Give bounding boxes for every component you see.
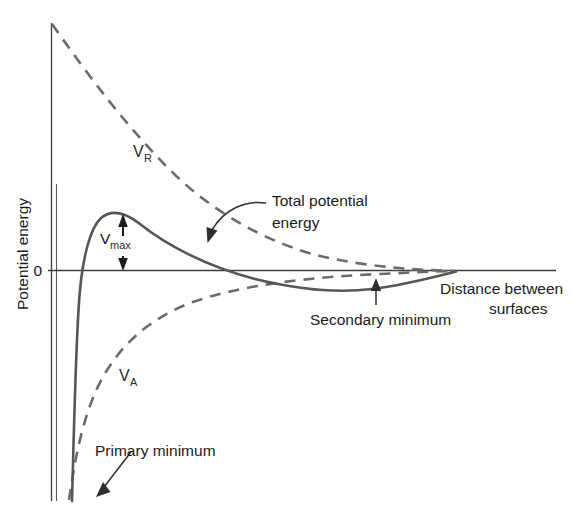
curve-label-vr: V <box>133 143 144 160</box>
annotation-label-primary-minimum: Primary minimum <box>95 442 216 459</box>
zero-tick-label: 0 <box>33 262 42 279</box>
secondary-minimum-leader <box>371 278 381 305</box>
y-axis-label: Potential energy <box>14 198 31 310</box>
curve-label-total-line1: Total potential <box>272 192 368 209</box>
annotation-label-secondary-minimum: Secondary minimum <box>310 311 451 328</box>
curve-label-va: V <box>119 367 130 384</box>
x-axis-label-line2: surfaces <box>489 300 548 317</box>
curve-repulsion-vr <box>52 24 455 271</box>
x-axis-label-line1: Distance between <box>440 280 563 297</box>
curve-attraction-va <box>69 271 457 500</box>
curve-label-vr-subscript: R <box>144 152 152 164</box>
curve-label-va-subscript: A <box>130 376 138 388</box>
dlvo-potential-energy-chart: Potential energy 0 Distance between surf… <box>0 0 573 511</box>
annotation-label-vmax-subscript: max <box>110 239 131 251</box>
dlvo-figure: Potential energy 0 Distance between surf… <box>0 0 573 511</box>
curve-label-total-line2: energy <box>272 214 320 231</box>
